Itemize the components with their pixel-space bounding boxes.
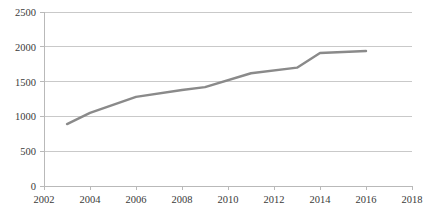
axis-group: [44, 12, 412, 186]
x-axis-tick-label: 2004: [80, 194, 101, 205]
x-axis-tick-label: 2016: [356, 194, 377, 205]
data-series-group: [67, 51, 366, 124]
gridlines-group: [44, 12, 412, 151]
y-axis-tick-label: 1000: [0, 111, 36, 122]
x-axis-tick-label: 2008: [172, 194, 193, 205]
x-axis-tick-label: 2006: [126, 194, 147, 205]
x-axis-tick-label: 2010: [218, 194, 239, 205]
y-axis-tick-label: 1500: [0, 76, 36, 87]
y-axis-tick-label: 2000: [0, 41, 36, 52]
x-axis-tick-label: 2012: [264, 194, 285, 205]
chart-canvas: [0, 0, 435, 215]
x-axis-tick-label: 2014: [310, 194, 331, 205]
line-chart: 05001000150020002500 2002200420062008201…: [0, 0, 435, 215]
y-tick-marks-group: [40, 12, 44, 186]
y-axis-tick-label: 2500: [0, 7, 36, 18]
y-axis-tick-label: 500: [0, 146, 36, 157]
data-line: [67, 51, 366, 124]
x-axis-tick-label: 2002: [34, 194, 55, 205]
x-axis-tick-label: 2018: [402, 194, 423, 205]
x-tick-marks-group: [44, 186, 412, 190]
y-axis-tick-label: 0: [0, 181, 36, 192]
